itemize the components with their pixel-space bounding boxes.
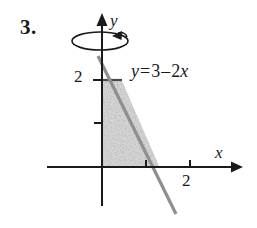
equation-coefficient: 2 xyxy=(171,61,180,81)
problem-number: 3. xyxy=(20,17,37,38)
y-tick-label-2: 2 xyxy=(74,68,83,85)
y-axis-label: y xyxy=(110,12,118,29)
equation-minus: – xyxy=(160,61,171,81)
equation-lhs: y xyxy=(131,61,139,81)
equation-intercept: 3 xyxy=(151,61,160,81)
x-axis-arrowhead-icon xyxy=(231,162,243,173)
revolution-solid-diagram xyxy=(0,0,257,228)
y-axis-arrowhead-icon xyxy=(97,13,108,26)
figure-container: 3. y x 2 2 y=3–2x xyxy=(0,0,257,228)
equation-equals: = xyxy=(139,61,151,81)
x-axis-label: x xyxy=(215,144,223,161)
equation-variable: x xyxy=(180,61,188,81)
x-tick-label-2: 2 xyxy=(182,172,191,189)
line-equation-label: y=3–2x xyxy=(131,62,188,80)
